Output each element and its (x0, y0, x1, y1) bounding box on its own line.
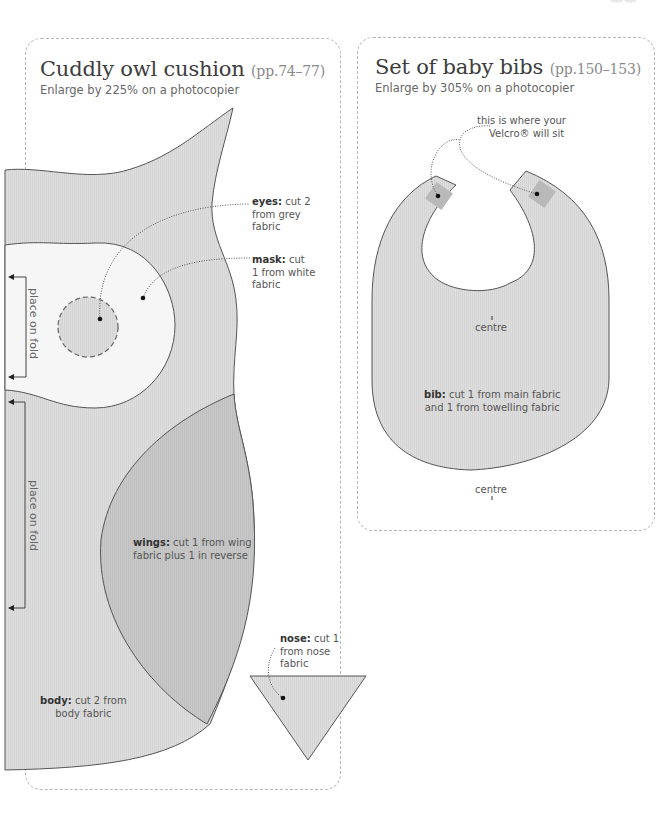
owl-nose-piece (250, 676, 366, 760)
bib-title-text: Set of baby bibs (375, 55, 543, 79)
bib-enlarge-instruction: Enlarge by 305% on a photocopier (375, 81, 574, 95)
eyes-label: eyes: cut 2 from grey fabric (252, 196, 311, 234)
velcro-label: this is where your Velcro® will sit (477, 115, 566, 140)
mask-label: mask: cut 1 from white fabric (252, 254, 315, 292)
bib-page-ref: (pp.150–153) (550, 61, 641, 77)
body-label: body: cut 2 from body fabric (40, 695, 127, 720)
place-on-fold-label-1: place on fold (27, 288, 40, 359)
bib-title: Set of baby bibs (pp.150–153) (375, 55, 641, 79)
owl-eye-piece (58, 297, 118, 357)
place-on-fold-label-2: place on fold (27, 480, 40, 551)
centre-label-bottom: centre (475, 484, 507, 497)
bib-pattern-card (357, 37, 655, 531)
bib-label: bib: cut 1 from main fabric and 1 from t… (424, 389, 560, 414)
centre-label-top: centre (475, 322, 507, 335)
wings-label: wings: cut 1 from wing fabric plus 1 in … (133, 537, 252, 562)
nose-label: nose: cut 1 from nose fabric (280, 633, 339, 671)
